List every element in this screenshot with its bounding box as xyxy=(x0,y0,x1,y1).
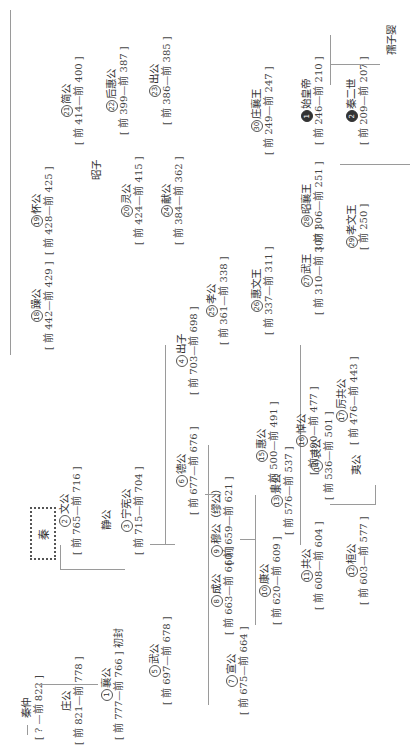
node-huangong: 12桓公 [ 前 603—前 577 ] xyxy=(345,516,371,605)
connector xyxy=(150,544,175,545)
node-jiangong: 21简公 [ 前 414—前 400 ] xyxy=(60,56,86,145)
node-linggong: 20灵公 [ 前 424—前 415 ] xyxy=(120,156,146,245)
connector xyxy=(330,35,331,85)
connector xyxy=(330,504,375,505)
node-kanggong: 10康公 [ 前 620—前 609 ] xyxy=(258,536,284,625)
node-mugong: 9穆公（缪公） [ 前 659—前 621 ] xyxy=(210,476,236,565)
node-huaigong: 19怀公 [ 前 428—前 425 ] xyxy=(30,166,56,255)
node-ligong: 17厉共公 [ 前 476—前 443 ] xyxy=(335,356,361,445)
node-huiwen: 26惠文王 [ 前 337—前 311 ] xyxy=(250,246,276,335)
node-yigong: 夷公 xyxy=(350,455,363,475)
node-ershi: 2秦二世 [ 前 209—前 207 ] xyxy=(345,56,371,145)
connector xyxy=(330,64,380,65)
node-zaogong: 18躁公 [ 前 442—前 429 ] xyxy=(30,261,56,350)
node-zhaozi: 昭子 xyxy=(90,160,103,180)
node-xiangong: 24献公 [ 前 384—前 362 ] xyxy=(160,156,186,245)
connector xyxy=(27,725,28,735)
node-houhui: 22后惠公 [ 前 399—前 387 ] xyxy=(105,46,131,135)
node-xianggong: 1襄公 [ 前 777—前 766 ] 初封 xyxy=(100,628,126,740)
connector xyxy=(208,445,209,705)
node-degong: 6德公 [ 前 677—前 676 ] xyxy=(175,426,201,515)
title: 秦 xyxy=(38,527,51,540)
node-chugong: 23出公 [ 前 386—前 385 ] xyxy=(148,36,174,125)
node-zhaoxiang: 28昭襄王 [ 前 306—前 251 ] xyxy=(300,161,326,250)
node-wengong: 2文公 [ 前 765—前 716 ] xyxy=(58,466,84,555)
node-zhuanggong: 庄公 [ 前 821—前 778 ] xyxy=(60,656,86,745)
connector xyxy=(60,569,125,570)
title-box: 秦 xyxy=(30,507,56,560)
node-chuzi: 4出子 [ 前 703—前 698 ] xyxy=(175,306,201,395)
node-xiaowen: 29孝文王 [ 前 250 ] xyxy=(345,204,371,250)
connector xyxy=(165,345,166,545)
node-ningxian: 3宁宪公 [ 前 715—前 704 ] xyxy=(120,466,146,555)
node-daogong: 16悼公 [ 前 490—前 477 ] xyxy=(295,386,321,475)
connector xyxy=(10,10,11,355)
node-wugong5: 5武公 [ 前 697—前 678 ] xyxy=(148,616,174,705)
connector xyxy=(240,539,255,540)
connector xyxy=(36,684,98,685)
connector xyxy=(340,164,410,165)
node-gonggong: 11共公 [ 前 608—前 604 ] xyxy=(300,521,326,610)
connector xyxy=(255,495,256,625)
node-xiaogong: 25孝公 [ 前 361—前 338 ] xyxy=(205,256,231,345)
node-zhuangxiang: 30庄襄王 [ 前 249—前 247 ] xyxy=(250,66,276,155)
node-xuangong: 7宣公 [ 前 675—前 664 ] xyxy=(225,626,251,715)
qin-genealogy-diagram: 秦 秦仲 [ ? —前 822 ] 庄公 [ 前 821—前 778 ] 1襄公… xyxy=(0,0,419,745)
node-shihuang: 1始皇帝 [ 前 246—前 210 ] xyxy=(300,56,326,145)
number-badge: 1 xyxy=(101,689,113,701)
node-ziying: 孺子婴 xyxy=(385,25,398,55)
node-jinggong: 静公 xyxy=(100,510,113,530)
connector xyxy=(375,485,376,505)
node-huigong15: 15惠公 [ 前 500—前 491 ] xyxy=(255,401,281,490)
